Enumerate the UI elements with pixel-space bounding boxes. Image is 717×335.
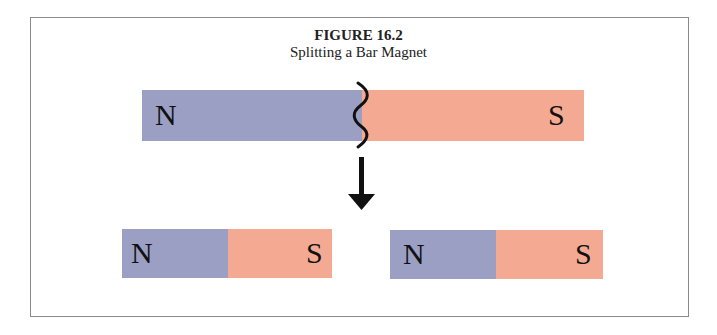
- wavy-break-line-icon: [354, 83, 367, 147]
- split-and-arrow-graphics: [0, 0, 717, 335]
- bottom-left-north-label: N: [131, 238, 153, 268]
- down-arrow-icon: [348, 157, 375, 210]
- bottom-right-north-label: N: [403, 239, 425, 269]
- bottom-right-south-label: S: [575, 239, 592, 269]
- bottom-left-south-label: S: [306, 238, 323, 268]
